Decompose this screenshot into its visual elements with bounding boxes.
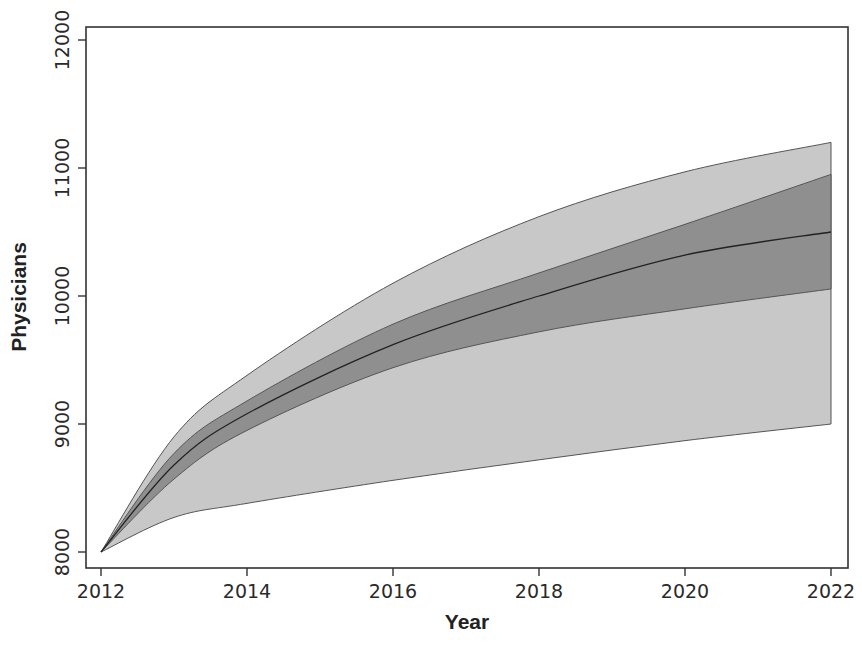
x-tick-label: 2014 <box>223 580 271 602</box>
y-axis: 80009000100001100012000 <box>51 10 86 576</box>
x-tick-label: 2022 <box>807 580 855 602</box>
y-axis-title: Physicians <box>7 242 30 352</box>
x-axis-title: Year <box>445 610 489 633</box>
x-tick-label: 2020 <box>661 580 709 602</box>
y-tick-label: 12000 <box>51 10 73 70</box>
interval-bands <box>101 142 831 552</box>
x-tick-label: 2012 <box>77 580 125 602</box>
x-tick-label: 2016 <box>369 580 417 602</box>
y-tick-label: 8000 <box>51 528 73 576</box>
y-tick-label: 10000 <box>51 266 73 326</box>
x-tick-label: 2018 <box>515 580 563 602</box>
y-tick-label: 9000 <box>51 400 73 448</box>
y-tick-label: 11000 <box>51 138 73 198</box>
fan-chart: 201220142016201820202022 800090001000011… <box>0 0 862 663</box>
x-axis: 201220142016201820202022 <box>77 568 855 602</box>
